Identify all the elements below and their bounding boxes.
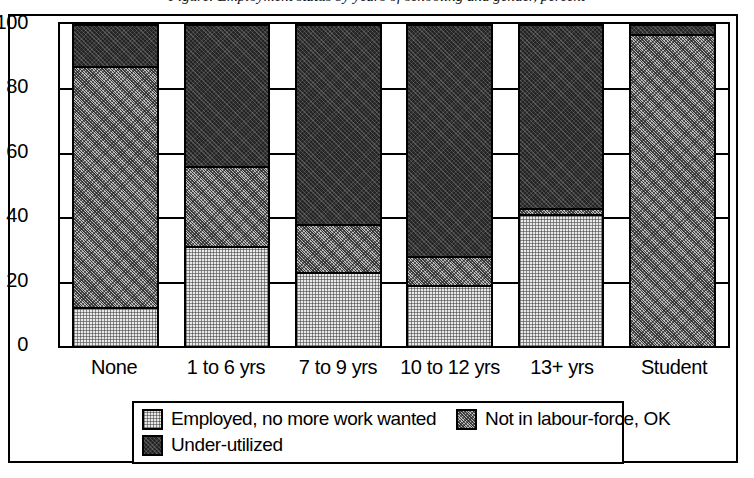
legend-label: Not in labour-force, OK bbox=[485, 408, 670, 430]
y-axis-tick-label: 80 bbox=[0, 75, 28, 98]
x-axis-tick-label: Student bbox=[618, 356, 730, 379]
bar-segment[interactable] bbox=[520, 208, 603, 214]
bar-segment[interactable] bbox=[408, 285, 491, 346]
bar-group-student[interactable] bbox=[617, 24, 728, 346]
stacked-bar[interactable] bbox=[295, 24, 382, 346]
legend-label: Employed, no more work wanted bbox=[171, 408, 436, 430]
bar-series-group bbox=[60, 24, 728, 346]
bar-segment[interactable] bbox=[186, 166, 269, 247]
bar-segment[interactable] bbox=[74, 307, 157, 346]
bar-group-7-to-9-yrs[interactable] bbox=[283, 24, 394, 346]
bar-segment[interactable] bbox=[520, 24, 603, 208]
y-axis-tick-label: 100 bbox=[0, 11, 28, 34]
bar-segment[interactable] bbox=[297, 24, 380, 224]
bar-segment[interactable] bbox=[520, 214, 603, 346]
bar-segment[interactable] bbox=[631, 24, 714, 34]
x-axis-tick-label: 10 to 12 yrs bbox=[394, 356, 506, 379]
bar-segment[interactable] bbox=[74, 66, 157, 308]
bar-segment[interactable] bbox=[408, 24, 491, 256]
legend-item-under-utilized: Under-utilized bbox=[142, 434, 283, 456]
legend-item-not-in-labour-force: Not in labour-force, OK bbox=[456, 408, 670, 430]
plot-area bbox=[58, 22, 730, 348]
chart-legend: Employed, no more work wanted Not in lab… bbox=[132, 401, 624, 464]
stacked-bar[interactable] bbox=[184, 24, 271, 346]
bar-segment[interactable] bbox=[631, 34, 714, 346]
figure-title-text: Figure: Employment status by years of sc… bbox=[169, 0, 585, 5]
x-axis-tick-label: 7 to 9 yrs bbox=[282, 356, 394, 379]
bar-segment[interactable] bbox=[297, 272, 380, 346]
bar-segment[interactable] bbox=[408, 256, 491, 285]
bar-segment[interactable] bbox=[186, 24, 269, 166]
legend-swatch-dark-icon bbox=[142, 435, 163, 456]
legend-swatch-medium-icon bbox=[456, 409, 477, 430]
bar-group-10-to-12-yrs[interactable] bbox=[394, 24, 505, 346]
y-axis-tick-label: 0 bbox=[0, 333, 28, 356]
x-axis-labels: None1 to 6 yrs7 to 9 yrs10 to 12 yrs13+ … bbox=[58, 356, 730, 379]
stacked-bar[interactable] bbox=[406, 24, 493, 346]
legend-row: Under-utilized bbox=[142, 434, 614, 456]
bar-group-13-yrs[interactable] bbox=[505, 24, 616, 346]
legend-row: Employed, no more work wanted Not in lab… bbox=[142, 408, 614, 430]
x-axis-tick-label: 1 to 6 yrs bbox=[170, 356, 282, 379]
legend-swatch-light-icon bbox=[142, 409, 163, 430]
figure-title-clipped: Figure: Employment status by years of sc… bbox=[0, 0, 754, 13]
y-axis-tick-label: 40 bbox=[0, 204, 28, 227]
x-axis-tick-label: None bbox=[58, 356, 170, 379]
y-axis-tick-label: 60 bbox=[0, 140, 28, 163]
figure-frame: 100806040200 None1 to 6 yrs7 to 9 yrs10 … bbox=[8, 14, 738, 463]
y-axis-tick-label: 20 bbox=[0, 269, 28, 292]
stacked-bar[interactable] bbox=[629, 24, 716, 346]
bar-segment[interactable] bbox=[186, 246, 269, 346]
bar-group-none[interactable] bbox=[60, 24, 171, 346]
x-axis-tick-label: 13+ yrs bbox=[506, 356, 618, 379]
stacked-bar[interactable] bbox=[72, 24, 159, 346]
bar-group-1-to-6-yrs[interactable] bbox=[171, 24, 282, 346]
stacked-bar[interactable] bbox=[518, 24, 605, 346]
legend-item-employed: Employed, no more work wanted bbox=[142, 408, 436, 430]
bar-segment[interactable] bbox=[297, 224, 380, 272]
legend-label: Under-utilized bbox=[171, 434, 283, 456]
bar-segment[interactable] bbox=[74, 24, 157, 66]
